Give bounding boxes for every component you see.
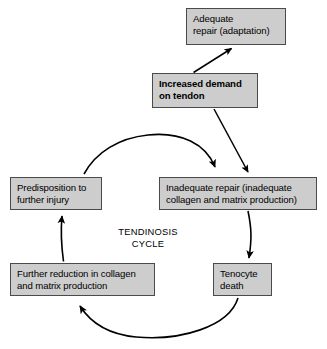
edge-further-to-predisposition [61, 216, 63, 262]
edge-demand-to-inadequate [214, 109, 248, 172]
node-inadequate-repair[interactable]: Inadequate repair (inadequate collagen a… [159, 177, 317, 210]
tendinosis-cycle-diagram: Adequate repair (adaptation) Increased d… [0, 0, 327, 349]
arrow-layer [0, 0, 327, 349]
cycle-center-label: TENDINOSIS CYCLE [106, 226, 190, 249]
node-predisposition[interactable]: Predisposition to further injury [10, 177, 102, 210]
edge-predisposition-to-inadequate [84, 134, 215, 174]
edge-demand-to-adequate [194, 49, 232, 73]
node-tenocyte-death[interactable]: Tenocyte death [213, 263, 272, 296]
node-increased-demand[interactable]: Increased demand on tendon [152, 73, 258, 108]
edge-tenocyte-to-further [80, 298, 238, 338]
node-further-reduction[interactable]: Further reduction in collagen and matrix… [10, 263, 155, 296]
node-adequate-repair[interactable]: Adequate repair (adaptation) [186, 8, 286, 45]
edge-inadequate-to-tenocyte [248, 211, 251, 258]
